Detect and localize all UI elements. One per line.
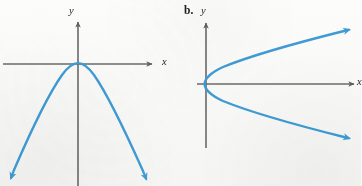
panel-b-lower-arrow (344, 137, 350, 138)
panel-b-y-axis-label: y (201, 6, 206, 17)
panel-a-group (3, 22, 152, 186)
panel-a-right-arrow (143, 171, 146, 179)
panel-b-upper-arrow (344, 30, 350, 31)
panel-a-y-axis-label: y (69, 6, 74, 17)
panel-b-letter: b. (184, 5, 193, 17)
panel-b-group (197, 23, 354, 148)
panel-a-x-axis-label: x (162, 57, 167, 68)
panel-a-left-arrow (11, 170, 14, 179)
panel-b-x-axis-label: x (357, 77, 362, 88)
